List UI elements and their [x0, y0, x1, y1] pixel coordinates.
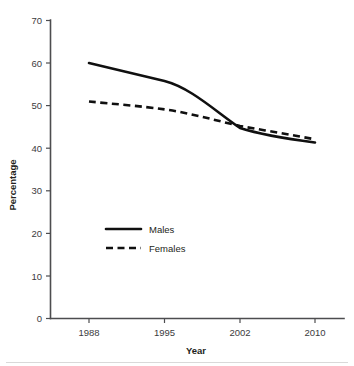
x-axis-ticks: 1988 1995 2002 2010 [78, 319, 325, 339]
x-axis-title: Year [186, 345, 206, 356]
series-line-males [89, 63, 315, 143]
y-tick-label-40: 40 [31, 143, 42, 154]
y-tick-label-60: 60 [31, 58, 42, 69]
legend-label-females: Females [149, 243, 186, 254]
chart-legend: Males Females [106, 224, 186, 254]
y-tick-label-30: 30 [31, 185, 42, 196]
line-chart: 70 60 50 40 30 20 10 0 1988 1995 2002 20… [0, 0, 354, 366]
x-tick-label-2010: 2010 [304, 327, 325, 338]
legend-label-males: Males [149, 224, 175, 235]
y-tick-label-20: 20 [31, 228, 42, 239]
x-tick-label-2002: 2002 [229, 327, 250, 338]
y-tick-label-10: 10 [31, 271, 42, 282]
x-tick-label-1995: 1995 [154, 327, 175, 338]
y-axis-ticks: 70 60 50 40 30 20 10 0 [31, 15, 50, 324]
y-tick-label-0: 0 [37, 313, 42, 324]
y-tick-label-50: 50 [31, 100, 42, 111]
series-line-females [89, 102, 315, 140]
x-tick-label-1988: 1988 [78, 327, 99, 338]
chart-canvas: 70 60 50 40 30 20 10 0 1988 1995 2002 20… [0, 0, 354, 366]
y-tick-label-70: 70 [31, 15, 42, 26]
y-axis-title: Percentage [7, 159, 18, 210]
